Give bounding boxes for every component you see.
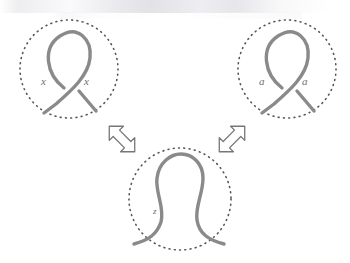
right-label-a-1: a [259,76,265,87]
knot-diagram-figure: x x a a z [0,0,350,263]
double-arrow-right [211,118,253,160]
right-strand-over [262,32,308,113]
right-label-a-2: a [302,76,308,87]
right-arrow-shape [212,119,252,159]
left-strand-over [44,32,90,113]
bottom-dotted-circle [129,148,231,250]
left-label-x-2: x [84,76,89,87]
scan-artifact-top [0,0,350,13]
right-dotted-circle [238,20,336,118]
right-tangle-panel [234,16,340,122]
left-dotted-circle [20,20,118,118]
bottom-strand [134,154,224,244]
bottom-label-z: z [153,207,157,216]
left-tangle-panel [16,16,122,122]
bottom-tangle-panel [125,144,235,254]
right-strand-under [297,91,314,111]
left-arrow-shape [102,119,142,159]
left-strand-under [79,91,96,111]
double-arrow-left [101,118,143,160]
left-label-x-1: x [41,76,46,87]
